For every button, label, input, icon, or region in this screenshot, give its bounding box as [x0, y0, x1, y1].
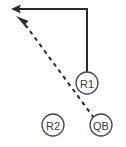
player-marker-qb[interactable]: QB: [90, 114, 112, 136]
r1-run-route-line: [18, 9, 87, 72]
player-label-r2: R2: [46, 120, 60, 132]
play-diagram-canvas: R1 R2 QB: [0, 0, 126, 147]
player-marker-r2[interactable]: R2: [42, 114, 64, 136]
qb-pass-route-line: [24, 23, 94, 118]
player-label-r1: R1: [80, 78, 94, 90]
play-diagram: R1 R2 QB: [0, 0, 126, 147]
player-marker-r1[interactable]: R1: [76, 72, 98, 94]
player-label-qb: QB: [93, 120, 109, 132]
